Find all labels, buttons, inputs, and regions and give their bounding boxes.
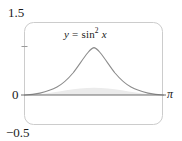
- equation-function: sin: [81, 28, 94, 40]
- equation-equals: =: [69, 28, 81, 40]
- y-axis-max-label: 1.5: [8, 6, 24, 19]
- y-axis-min-label: −0.5: [6, 126, 30, 139]
- x-axis-pi-label: π: [167, 88, 173, 100]
- equation-annotation: y = sin2 x: [64, 28, 107, 40]
- figure-sin-squared-plot: 1.5 0 −0.5 π y = sin2 x: [0, 0, 182, 141]
- equation-variable: x: [99, 28, 107, 40]
- plot-svg: [0, 0, 182, 141]
- y-axis-zero-label: 0: [12, 88, 19, 101]
